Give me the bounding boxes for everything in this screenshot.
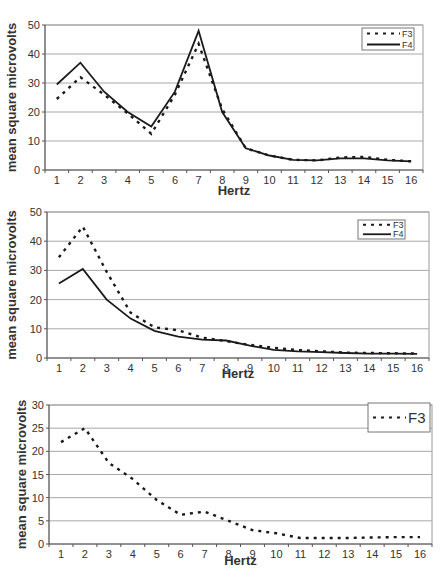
x-tick-label: 5 — [151, 362, 157, 374]
x-tick-label: 3 — [106, 548, 112, 560]
y-axis-label: mean square microvolts — [14, 400, 29, 550]
legend-label-f3: F3 — [393, 220, 404, 230]
y-tick-label: 10 — [32, 492, 44, 504]
y-tick-label: 5 — [38, 515, 44, 527]
x-tick-label: 13 — [334, 174, 346, 186]
x-tick-label: 6 — [172, 174, 178, 186]
y-tick-label: 25 — [32, 422, 44, 434]
chart-3: 05101520253012345678910111213141516Hertz… — [0, 385, 447, 582]
y-tick-label: 30 — [32, 399, 44, 411]
y-tick-label: 30 — [28, 77, 40, 89]
x-tick-label: 4 — [130, 548, 136, 560]
x-tick-label: 7 — [199, 362, 205, 374]
x-tick-label: 13 — [342, 548, 354, 560]
x-tick-label: 12 — [311, 174, 323, 186]
y-axis-label: mean square microvolts — [4, 23, 19, 173]
x-tick-label: 11 — [292, 362, 303, 374]
y-tick-label: 50 — [28, 19, 40, 31]
x-tick-label: 16 — [414, 548, 426, 560]
x-tick-label: 5 — [148, 174, 154, 186]
legend-label-f4: F4 — [402, 40, 413, 50]
y-tick-label: 0 — [34, 164, 40, 176]
y-tick-label: 40 — [30, 235, 42, 247]
x-axis-label: Hertz — [218, 183, 251, 198]
x-tick-label: 3 — [101, 174, 107, 186]
y-tick-label: 15 — [32, 469, 44, 481]
y-axis-label: mean square microvolts — [4, 210, 19, 360]
y-tick-label: 30 — [30, 264, 42, 276]
x-tick-label: 6 — [178, 548, 184, 560]
x-tick-label: 1 — [54, 174, 60, 186]
x-tick-label: 16 — [405, 174, 417, 186]
x-tick-label: 16 — [411, 362, 423, 374]
x-tick-label: 14 — [358, 174, 370, 186]
y-tick-label: 0 — [38, 538, 44, 550]
x-tick-label: 11 — [295, 548, 306, 560]
x-tick-label: 2 — [80, 362, 86, 374]
legend: F3F4 — [358, 220, 405, 240]
y-tick-label: 50 — [30, 206, 42, 218]
x-tick-label: 2 — [82, 548, 88, 560]
chart-1-plot: 0102030405012345678910111213141516Hertzm… — [0, 0, 447, 200]
x-tick-label: 5 — [154, 548, 160, 560]
x-axis-label: Hertz — [222, 366, 255, 381]
y-tick-label: 20 — [32, 445, 44, 457]
y-tick-label: 10 — [28, 135, 40, 147]
x-tick-label: 3 — [104, 362, 110, 374]
x-tick-label: 15 — [390, 548, 402, 560]
y-tick-label: 20 — [28, 106, 40, 118]
x-tick-label: 7 — [202, 548, 208, 560]
legend: F3F4 — [362, 28, 414, 50]
x-tick-label: 14 — [366, 548, 378, 560]
x-tick-label: 4 — [125, 174, 131, 186]
x-tick-label: 12 — [318, 548, 330, 560]
legend-label-f4: F4 — [393, 229, 404, 239]
x-tick-label: 10 — [270, 548, 282, 560]
x-tick-label: 14 — [363, 362, 375, 374]
x-tick-label: 15 — [381, 174, 393, 186]
x-axis-label: Hertz — [224, 553, 257, 568]
chart-2-plot: 0102030405012345678910111213141516Hertzm… — [0, 200, 447, 385]
x-tick-label: 2 — [77, 174, 83, 186]
x-tick-label: 13 — [339, 362, 351, 374]
legend: F3 — [368, 403, 430, 432]
x-tick-label: 10 — [263, 174, 275, 186]
x-tick-label: 6 — [175, 362, 181, 374]
x-tick-label: 7 — [196, 174, 202, 186]
x-tick-label: 4 — [128, 362, 134, 374]
x-tick-label: 1 — [58, 548, 64, 560]
chart-3-plot: 05101520253012345678910111213141516Hertz… — [0, 385, 447, 582]
x-tick-label: 12 — [315, 362, 327, 374]
x-tick-label: 11 — [287, 174, 298, 186]
x-tick-label: 15 — [387, 362, 399, 374]
y-tick-label: 20 — [30, 294, 42, 306]
chart-1: 0102030405012345678910111213141516Hertzm… — [0, 0, 447, 200]
legend-label-f3: F3 — [408, 409, 426, 426]
x-tick-label: 1 — [56, 362, 62, 374]
y-tick-label: 0 — [36, 352, 42, 364]
y-tick-label: 40 — [28, 48, 40, 60]
y-tick-label: 10 — [30, 323, 42, 335]
x-tick-label: 10 — [268, 362, 280, 374]
chart-2: 0102030405012345678910111213141516Hertzm… — [0, 200, 447, 385]
legend-label-f3: F3 — [402, 29, 413, 39]
